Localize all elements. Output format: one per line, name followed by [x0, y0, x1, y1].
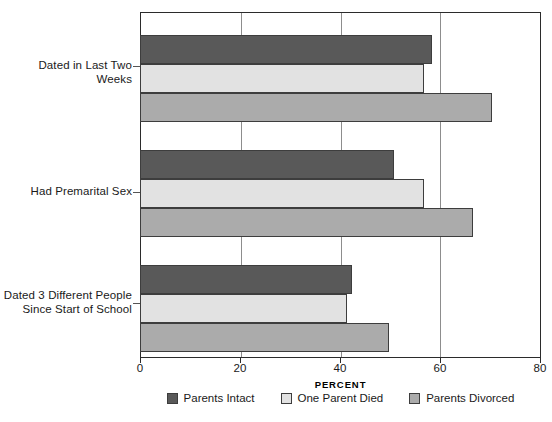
- xtick-label-80: 80: [534, 362, 547, 374]
- bar-dated-in-last-two-weeks-parents-intact: [140, 35, 432, 64]
- legend-label-parents-intact: Parents Intact: [184, 392, 255, 404]
- bar-had-premarital-sex-parents-intact: [140, 150, 394, 179]
- category-label-dated-in-last-two-weeks: Dated in Last Two Weeks: [0, 59, 132, 86]
- xtick-label-40: 40: [334, 362, 347, 374]
- legend-item-parents-intact: Parents Intact: [167, 392, 255, 404]
- gridline-60: [440, 13, 441, 357]
- category-label-dated-3-different-people: Dated 3 Different People Since Start of …: [0, 289, 132, 316]
- bar-had-premarital-sex-one-parent-died: [140, 179, 424, 208]
- legend-item-parents-divorced: Parents Divorced: [409, 392, 514, 404]
- legend-swatch-one-parent-died: [281, 393, 292, 404]
- category-tick-0: [133, 66, 140, 67]
- bar-chart: Dated in Last Two Weeks Had Premarital S…: [0, 0, 552, 422]
- legend-item-one-parent-died: One Parent Died: [281, 392, 384, 404]
- legend: Parents Intact One Parent Died Parents D…: [140, 392, 541, 404]
- xtick-label-60: 60: [434, 362, 447, 374]
- plot-area: [140, 12, 541, 358]
- xtick-label-20: 20: [234, 362, 247, 374]
- bar-had-premarital-sex-parents-divorced: [140, 208, 473, 237]
- bar-dated-in-last-two-weeks-parents-divorced: [140, 93, 492, 122]
- category-tick-1: [133, 192, 140, 193]
- x-axis-title: PERCENT: [140, 379, 541, 390]
- legend-swatch-parents-intact: [167, 393, 178, 404]
- xtick-label-0: 0: [137, 362, 143, 374]
- legend-swatch-parents-divorced: [409, 393, 420, 404]
- bar-dated-3-different-people-parents-intact: [140, 265, 352, 294]
- bar-dated-3-different-people-parents-divorced: [140, 323, 389, 352]
- category-tick-2: [133, 303, 140, 304]
- legend-label-one-parent-died: One Parent Died: [298, 392, 384, 404]
- category-label-had-premarital-sex: Had Premarital Sex: [0, 185, 132, 199]
- bar-dated-3-different-people-one-parent-died: [140, 294, 347, 323]
- legend-label-parents-divorced: Parents Divorced: [426, 392, 514, 404]
- bar-dated-in-last-two-weeks-one-parent-died: [140, 64, 424, 93]
